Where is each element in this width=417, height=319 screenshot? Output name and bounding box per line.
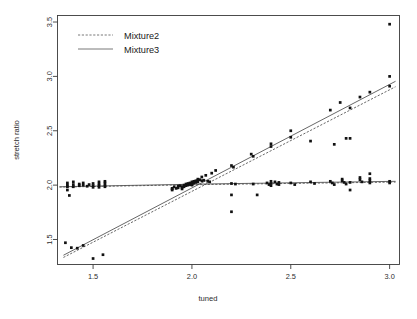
data-point [102, 253, 105, 256]
legend-label-mixture2: Mixture2 [124, 31, 159, 41]
y-tick-label: 1.5 [45, 234, 54, 244]
data-point [361, 181, 364, 184]
data-point [66, 185, 69, 188]
data-point [171, 188, 174, 191]
data-point [388, 75, 391, 78]
data-point [329, 109, 332, 112]
data-point [270, 184, 273, 187]
data-point [369, 91, 372, 94]
data-point [270, 142, 273, 145]
data-point [388, 182, 391, 185]
data-point [200, 176, 203, 179]
data-point [345, 183, 348, 186]
plot-background [0, 0, 417, 319]
data-point [70, 246, 73, 249]
data-point [230, 210, 233, 213]
data-point [309, 181, 312, 184]
data-point [289, 129, 292, 132]
data-point [252, 183, 255, 186]
data-point [98, 186, 101, 189]
y-tick-label: 2.5 [45, 126, 54, 136]
data-point [359, 96, 362, 99]
data-point [66, 189, 69, 192]
data-point [92, 257, 95, 260]
data-point [78, 184, 81, 187]
x-tick-label: 2.0 [187, 272, 197, 281]
x-tick-label: 1.5 [88, 272, 98, 281]
data-point [88, 183, 91, 186]
data-point [388, 23, 391, 26]
data-point [369, 172, 372, 175]
data-point [278, 183, 281, 186]
data-point [202, 179, 205, 182]
data-point [345, 137, 348, 140]
data-point [204, 174, 207, 177]
data-point [214, 169, 217, 172]
data-point [230, 194, 233, 197]
data-point [181, 185, 184, 188]
data-point [333, 143, 336, 146]
legend-label-mixture3: Mixture3 [124, 45, 159, 55]
data-point [72, 181, 75, 184]
x-tick-label: 3.0 [384, 272, 394, 281]
data-point [313, 182, 316, 185]
data-point [230, 182, 233, 185]
data-point [289, 136, 292, 139]
scatter-plot-figure: 1.52.02.53.0 1.52.02.53.03.5 tuned stret… [0, 0, 417, 319]
data-point [369, 182, 372, 185]
data-point [210, 172, 213, 175]
data-point [64, 241, 67, 244]
data-point [208, 181, 211, 184]
data-point [82, 184, 85, 187]
data-point [104, 185, 107, 188]
data-point [309, 140, 312, 143]
data-point [252, 155, 255, 158]
data-point [256, 194, 259, 197]
data-point [293, 183, 296, 186]
y-tick-label: 2.0 [45, 180, 54, 190]
x-axis-title: tuned [198, 294, 217, 303]
x-tick-label: 2.5 [286, 272, 296, 281]
data-point [72, 185, 75, 188]
data-point [76, 247, 79, 250]
data-point [92, 186, 95, 189]
y-axis-title: stretch ratio [12, 120, 21, 160]
data-point [234, 183, 237, 186]
y-tick-label: 3.0 [45, 71, 54, 81]
data-point [68, 194, 71, 197]
data-point [339, 101, 342, 104]
data-point [232, 166, 235, 169]
y-tick-label: 3.5 [45, 17, 54, 27]
data-point [270, 145, 273, 148]
data-point [388, 85, 391, 88]
data-point [349, 181, 352, 184]
data-point [349, 189, 352, 192]
data-point [349, 107, 352, 110]
data-point [289, 182, 292, 185]
data-point [82, 244, 85, 247]
data-point [333, 183, 336, 186]
data-point [197, 178, 200, 181]
data-point [191, 183, 194, 186]
data-point [349, 137, 352, 140]
chart-container: 1.52.02.53.0 1.52.02.53.03.5 tuned stret… [0, 0, 417, 319]
